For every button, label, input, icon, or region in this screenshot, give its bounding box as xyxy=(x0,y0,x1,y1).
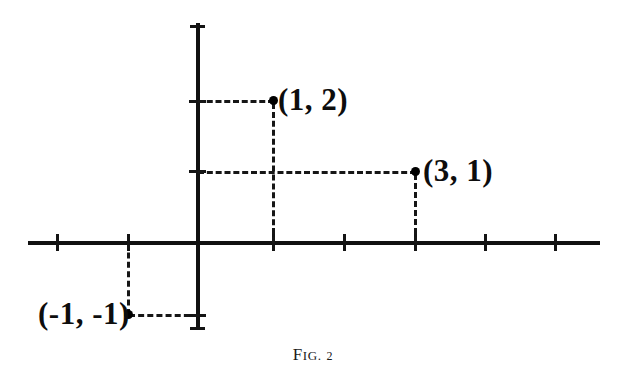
data-point-label-1-2: (1, 2) xyxy=(278,84,348,115)
guide-h-point--1--1 xyxy=(129,314,199,317)
caption-initial: F xyxy=(293,345,303,364)
data-point-label--1--1: (-1, -1) xyxy=(38,298,130,329)
x-tick-4 xyxy=(484,234,487,251)
caption-word: IG. xyxy=(303,348,322,363)
x-tick-2 xyxy=(343,234,346,251)
data-point-label-3-1: (3, 1) xyxy=(423,155,493,186)
y-axis-line xyxy=(196,23,200,330)
figure-caption: FIG.2 xyxy=(0,345,626,365)
figure-canvas: (1, 2) (3, 1) (-1, -1) FIG.2 xyxy=(0,0,626,369)
guide-h-point-1-2 xyxy=(198,100,274,103)
guide-v-point-3-1 xyxy=(414,174,417,243)
x-tick-5 xyxy=(554,234,557,251)
guide-h-point-3-1 xyxy=(198,171,416,174)
data-point-3-1[interactable] xyxy=(411,167,420,176)
y-axis-bottom-cap xyxy=(190,327,205,330)
y-axis-top-cap xyxy=(190,25,205,28)
data-point-1-2[interactable] xyxy=(269,96,278,105)
x-tick--2 xyxy=(56,234,59,251)
x-axis-line xyxy=(28,241,600,245)
caption-number: 2 xyxy=(327,349,334,363)
